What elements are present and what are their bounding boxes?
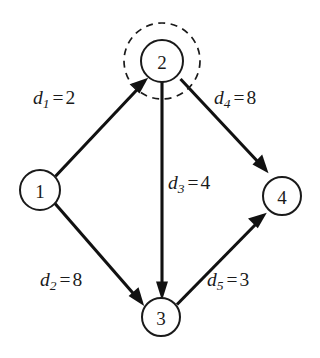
node-2-label: 2 xyxy=(157,52,167,73)
edge-label-d3: d3=4 xyxy=(168,173,210,196)
edge-label-d2-eq: = xyxy=(60,269,71,290)
edge-label-d5-eq: = xyxy=(227,269,238,290)
edge-d3 xyxy=(156,82,168,301)
edge-label-d4-eq: = xyxy=(234,87,245,108)
edge-label-d4-value: 8 xyxy=(247,87,257,108)
node-4-label: 4 xyxy=(277,187,287,208)
node-2[interactable]: 2 xyxy=(141,40,183,82)
edge-label-d5: d5=3 xyxy=(207,270,249,293)
edge-d5-arrowhead xyxy=(248,213,267,229)
edge-label-d3-sub: 3 xyxy=(178,181,185,196)
node-1-label: 1 xyxy=(35,181,45,202)
edge-label-d1-sub: 1 xyxy=(43,96,50,111)
node-3[interactable]: 3 xyxy=(142,298,180,336)
edge-label-d3-value: 4 xyxy=(201,172,211,193)
edge-label-d3-var: d xyxy=(168,172,178,193)
edge-label-d4: d4=8 xyxy=(214,88,256,111)
edge-label-d2-value: 8 xyxy=(73,269,83,290)
node-3-label: 3 xyxy=(156,308,166,329)
node-1[interactable]: 1 xyxy=(20,170,60,210)
edge-label-d2: d2=8 xyxy=(40,270,82,293)
edge-label-d1-eq: = xyxy=(53,87,64,108)
graph-canvas: 1 2 3 4 xyxy=(0,0,320,358)
edge-label-d2-var: d xyxy=(40,269,50,290)
edge-label-d5-var: d xyxy=(207,269,217,290)
edge-label-d1-var: d xyxy=(33,87,43,108)
node-4[interactable]: 4 xyxy=(263,177,301,215)
edge-label-d5-value: 3 xyxy=(240,269,250,290)
edge-label-d1: d1=2 xyxy=(33,88,75,111)
graph-figure: 1 2 3 4 d1=2 d4=8 d3=4 d2=8 d5=3 xyxy=(0,0,320,358)
edge-label-d3-eq: = xyxy=(188,172,199,193)
edge-label-d2-sub: 2 xyxy=(50,278,57,293)
edge-label-d1-value: 2 xyxy=(66,87,76,108)
edge-label-d4-var: d xyxy=(214,87,224,108)
edge-label-d4-sub: 4 xyxy=(224,96,231,111)
edge-label-d5-sub: 5 xyxy=(217,278,224,293)
